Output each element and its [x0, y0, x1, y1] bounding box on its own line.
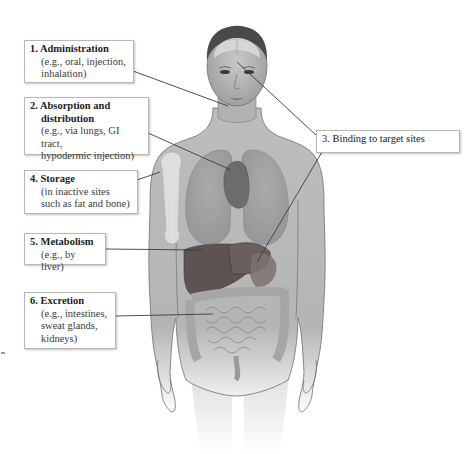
label-title: Excretion [41, 295, 85, 306]
label-excretion: 6. Excretion (e.g., intestines, sweat gl… [24, 292, 116, 349]
label-binding: 3. Binding to target sites [316, 130, 460, 153]
label-number: 4. [30, 173, 38, 184]
label-title: Metabolism [41, 236, 94, 247]
label-number: 1. [30, 43, 38, 54]
label-number: 5. [30, 236, 38, 247]
label-storage: 4. Storage (in inactive sites such as fa… [24, 170, 138, 214]
label-title: Binding to target sites [333, 133, 425, 144]
head [207, 26, 267, 106]
label-absorption-distribution: 2. Absorption anddistribution (e.g., via… [24, 97, 149, 155]
label-number: 6. [30, 295, 38, 306]
label-title: Administration [40, 43, 109, 54]
label-title: Storage [41, 173, 75, 184]
label-description: (e.g., by liver) [30, 249, 100, 274]
label-metabolism: 5. Metabolism (e.g., by liver) [24, 233, 106, 265]
label-title: Absorption and [40, 100, 110, 111]
label-number: 3. [322, 133, 330, 144]
label-description: (e.g., via lungs, GI tract, hypodermic i… [30, 125, 143, 163]
label-administration: 1. Administration (e.g., oral, injection… [24, 40, 134, 83]
label-title-line2: distribution [30, 113, 143, 126]
stray-mark [1, 352, 5, 354]
label-description: (in inactive sites such as fat and bone) [30, 186, 132, 211]
label-description: (e.g., intestines, sweat glands, kidneys… [30, 308, 110, 346]
label-number: 2. [30, 100, 38, 111]
label-description: (e.g., oral, injection, inhalation) [30, 56, 128, 81]
